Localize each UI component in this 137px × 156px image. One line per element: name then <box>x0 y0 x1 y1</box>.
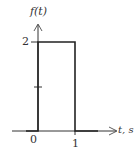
x-tick-label-1: 1 <box>72 138 79 149</box>
origin-label: 0 <box>30 134 37 145</box>
y-tick-label-2: 2 <box>22 36 29 47</box>
chart-svg <box>0 0 137 156</box>
x-axis-label: t, s <box>118 125 134 135</box>
pulse-chart: f(t) 2 0 1 t, s <box>0 0 137 156</box>
y-axis-label: f(t) <box>30 6 47 17</box>
